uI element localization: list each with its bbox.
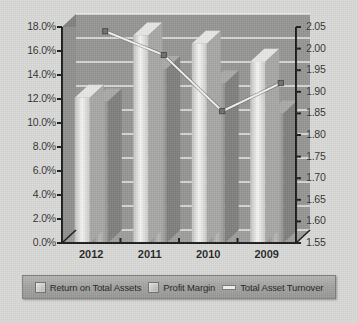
legend-line-icon (222, 285, 236, 290)
legend-swatch-icon (35, 282, 46, 293)
legend-label: Profit Margin (163, 282, 215, 293)
x-axis-tick-label: 2011 (120, 248, 180, 260)
y-axis-left-tick-label: 16.0% (4, 44, 56, 56)
y-axis-left-tick-label: 18.0% (4, 20, 56, 32)
y-axis-right-tick-label: 1.85 (306, 106, 326, 118)
y-axis-left-tick-label: 2.0% (4, 212, 56, 224)
chart-legend: Return on Total Assets Profit Margin Tot… (22, 275, 336, 299)
y-axis-right-tick-label: 1.90 (306, 85, 326, 97)
y-axis-left-tick-label: 12.0% (4, 92, 56, 104)
y-axis-left-tick-label: 4.0% (4, 188, 56, 200)
y-axis-right-tick-label: 1.80 (306, 128, 326, 140)
y-axis-right-tick-label: 1.55 (306, 236, 326, 248)
y-axis-left-tick-label: 0.0% (4, 236, 56, 248)
legend-item-profit-margin[interactable]: Profit Margin (148, 282, 215, 293)
legend-item-return-on-total-assets[interactable]: Return on Total Assets (35, 282, 142, 293)
legend-item-total-asset-turnover[interactable]: Total Asset Turnover (222, 282, 323, 293)
y-axis-right-tick-label: 1.70 (306, 171, 326, 183)
y-axis-left-tick-label: 8.0% (4, 140, 56, 152)
y-axis-right-tick-label: 2.00 (306, 42, 326, 54)
x-axis-tick-label: 2009 (237, 248, 297, 260)
x-axis-tick-label: 2010 (178, 248, 238, 260)
y-axis-right-tick-label: 1.75 (306, 150, 326, 162)
x-axis-tick-label: 2012 (61, 248, 121, 260)
legend-label: Return on Total Assets (50, 282, 142, 293)
y-axis-right-tick-label: 1.65 (306, 193, 326, 205)
y-axis-right-tick-label: 2.05 (306, 20, 326, 32)
y-axis-right-tick-label: 1.95 (306, 63, 326, 75)
y-axis-left-tick-label: 6.0% (4, 164, 56, 176)
y-axis-right-tick-label: 1.60 (306, 214, 326, 226)
y-axis-left-tick-label: 14.0% (4, 68, 56, 80)
legend-label: Total Asset Turnover (240, 282, 323, 293)
y-axis-left-tick-label: 10.0% (4, 116, 56, 128)
legend-swatch-icon (148, 282, 159, 293)
